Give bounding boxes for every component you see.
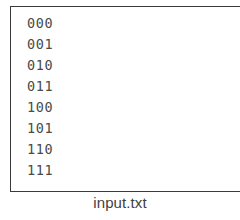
figure-caption: input.txt (0, 194, 240, 211)
file-line: 101 (27, 118, 53, 139)
file-line: 010 (27, 55, 53, 76)
file-line: 110 (27, 139, 53, 160)
file-line: 000 (27, 13, 53, 34)
file-line: 001 (27, 34, 53, 55)
file-line: 011 (27, 76, 53, 97)
file-content-box: 000 001 010 011 100 101 110 111 (10, 6, 240, 192)
file-line: 100 (27, 97, 53, 118)
file-line-list: 000 001 010 011 100 101 110 111 (27, 13, 53, 181)
file-line: 111 (27, 160, 53, 181)
